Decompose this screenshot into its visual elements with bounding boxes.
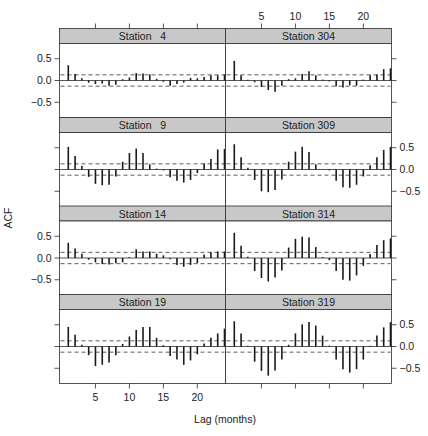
y-tick-label: 0.5 <box>400 318 415 330</box>
x-tick-label-bottom: 5 <box>93 391 99 403</box>
y-tick-label: 0.0 <box>400 163 415 175</box>
y-tick-label: −0.5 <box>400 362 421 374</box>
strip-label: Station 14 <box>119 208 166 220</box>
y-tick-label: 0.5 <box>37 52 52 64</box>
x-tick-label-top: 10 <box>290 10 302 22</box>
y-tick-label: −0.5 <box>31 273 52 285</box>
x-tick-label-top: 20 <box>357 10 369 22</box>
acf-lattice-chart: Station 4Station 304Station 9Station 309… <box>0 0 428 436</box>
panels-group: Station 4Station 304Station 9Station 309… <box>60 29 392 384</box>
y-tick-label: 0.0 <box>37 252 52 264</box>
strip-label: Station 4 <box>119 30 166 42</box>
y-tick-label: −0.5 <box>400 185 421 197</box>
strip-label: Station 314 <box>282 208 335 220</box>
strip-label: Station 304 <box>282 30 335 42</box>
x-tick-label-bottom: 10 <box>124 391 136 403</box>
y-tick-label: 0.0 <box>400 340 415 352</box>
y-tick-label: 0.5 <box>37 230 52 242</box>
x-tick-label-bottom: 20 <box>191 391 203 403</box>
strip-label: Station 309 <box>282 119 335 131</box>
x-axis-title: Lag (months) <box>194 413 256 425</box>
panel-station-9: Station 9 <box>60 118 226 207</box>
strip-label: Station 9 <box>119 119 166 131</box>
y-tick-label: −0.5 <box>31 96 52 108</box>
panel-station-14: Station 14 <box>60 206 226 295</box>
strip-label: Station 319 <box>282 296 335 308</box>
panel-station-314: Station 314 <box>226 206 392 295</box>
panel-station-19: Station 19 <box>60 295 226 384</box>
x-tick-label-bottom: 15 <box>158 391 170 403</box>
y-axis-title: ACF <box>2 208 14 229</box>
panel-station-4: Station 4 <box>60 29 226 118</box>
panel-station-319: Station 319 <box>226 295 392 384</box>
x-tick-label-top: 15 <box>324 10 336 22</box>
y-tick-label: 0.5 <box>400 141 415 153</box>
y-tick-label: 0.0 <box>37 74 52 86</box>
panel-station-309: Station 309 <box>226 118 392 207</box>
panel-station-304: Station 304 <box>226 29 392 118</box>
strip-label: Station 19 <box>119 296 166 308</box>
x-tick-label-top: 5 <box>259 10 265 22</box>
